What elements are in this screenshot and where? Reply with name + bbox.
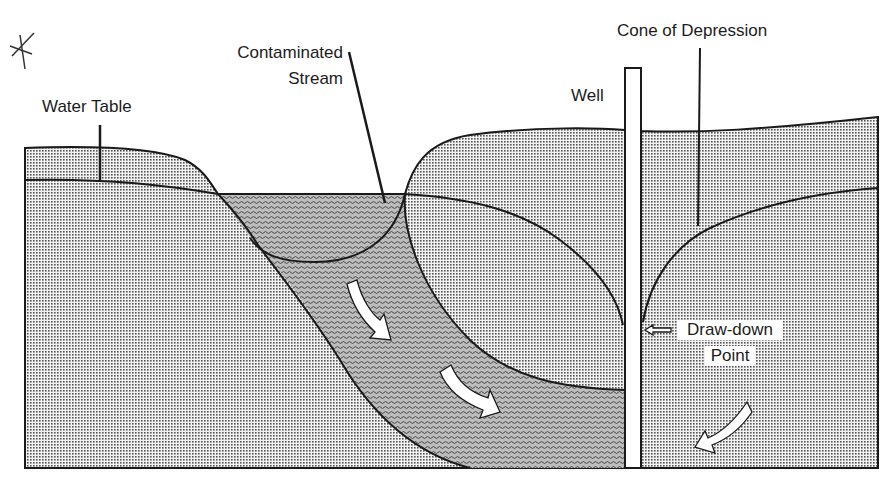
draw-down-label-line1: Draw-down xyxy=(677,320,783,340)
water-table-label: Water Table xyxy=(42,97,132,117)
contaminated-stream-label-line1: Contaminated xyxy=(196,43,343,63)
well-label: Well xyxy=(571,86,604,106)
cone-of-depression-label: Cone of Depression xyxy=(617,21,767,41)
asterisk-mark xyxy=(10,33,34,69)
well-casing xyxy=(625,68,641,468)
draw-down-label-line2: Point xyxy=(705,346,755,366)
contaminated-stream-label-line2: Stream xyxy=(196,69,343,89)
cross-section-diagram xyxy=(0,0,896,481)
stream-leader xyxy=(349,52,385,203)
